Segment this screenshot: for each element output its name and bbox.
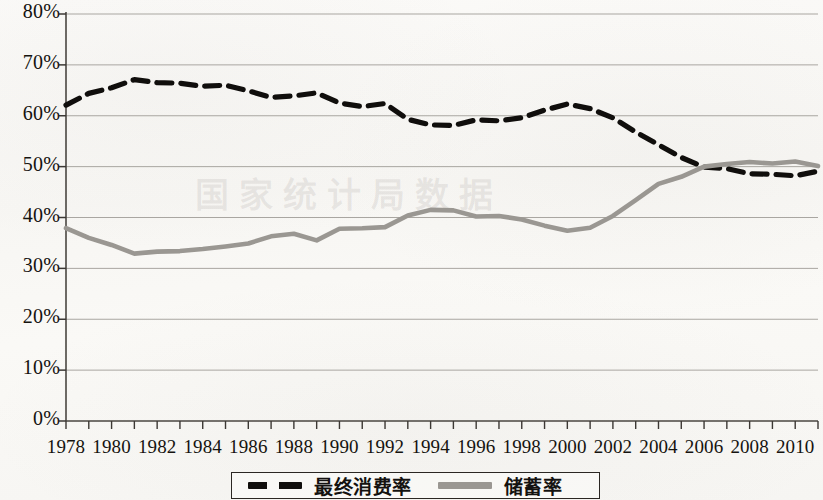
legend-label-consumption: 最终消费率	[314, 472, 412, 499]
dashed-line-swatch-icon	[248, 482, 302, 489]
solid-line-swatch-icon	[438, 482, 492, 489]
x-tick-label: 1984	[184, 436, 222, 458]
x-tick-label: 2010	[776, 436, 814, 458]
x-tick-label: 2002	[594, 436, 632, 458]
legend-label-savings: 储蓄率	[504, 472, 563, 499]
legend-entry-consumption[interactable]: 最终消费率	[248, 472, 412, 499]
x-tick-label: 1994	[411, 436, 449, 458]
legend-entry-savings[interactable]: 储蓄率	[438, 472, 563, 499]
line-chart: 80%70%60%50%40%30%20%10%0% 1978198019821…	[0, 0, 823, 500]
x-tick-label: 1986	[229, 436, 267, 458]
chart-legend: 最终消费率 储蓄率	[231, 472, 600, 499]
x-tick-label: 1988	[275, 436, 313, 458]
x-tick-label: 2004	[639, 436, 677, 458]
x-tick-label: 1982	[138, 436, 176, 458]
x-tick-label: 2006	[685, 436, 723, 458]
x-axis-tick-labels: 1978198019821984198619881990199219941996…	[0, 0, 823, 500]
x-tick-label: 2008	[730, 436, 768, 458]
x-tick-label: 1992	[366, 436, 404, 458]
x-tick-label: 1996	[457, 436, 495, 458]
x-tick-label: 1980	[92, 436, 130, 458]
x-tick-label: 1998	[503, 436, 541, 458]
x-tick-label: 2000	[548, 436, 586, 458]
x-tick-label: 1978	[47, 436, 85, 458]
x-tick-label: 1990	[320, 436, 358, 458]
